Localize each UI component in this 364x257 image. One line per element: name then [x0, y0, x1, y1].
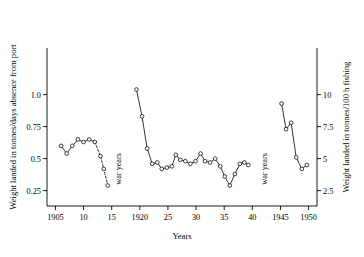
data-point — [59, 144, 63, 148]
x-tick-label: 1950 — [300, 213, 317, 222]
x-tick-label: 10 — [79, 213, 87, 222]
data-point — [280, 102, 284, 106]
data-point — [294, 156, 298, 160]
series-line-interwar — [136, 90, 248, 186]
series-line-pre-war-1-decline — [95, 142, 108, 186]
data-point — [194, 159, 198, 163]
x-tick-label: 15 — [108, 213, 116, 222]
y-tick-label-left: 0.75 — [26, 123, 41, 132]
data-point — [174, 153, 178, 157]
data-point — [233, 172, 237, 176]
y-tick-label-right: 2.5 — [323, 187, 333, 196]
data-point — [243, 161, 247, 165]
data-point — [199, 152, 203, 156]
y-tick-label-left: 1.0 — [31, 91, 41, 100]
series-line-post-war — [282, 104, 307, 169]
data-point — [82, 140, 86, 144]
data-point — [203, 159, 207, 163]
data-point — [300, 167, 304, 171]
data-point — [93, 140, 97, 144]
data-point — [165, 166, 169, 170]
y-tick-label-right: 5 — [323, 155, 327, 164]
data-point — [247, 163, 251, 167]
data-point — [106, 184, 110, 188]
data-point — [150, 162, 154, 166]
x-axis-title: Years — [172, 231, 192, 241]
annotation-war-years: war years — [114, 153, 123, 185]
y-tick-label-right: 7.5 — [323, 123, 333, 132]
chart-figure: 19051015192025303540194519500.250.50.751… — [0, 0, 364, 257]
chart-tick-labels: 19051015192025303540194519500.250.50.751… — [26, 91, 333, 222]
y-axis-title-left: Weight landed in tonnes/days absence fro… — [8, 44, 18, 210]
data-point — [238, 162, 242, 166]
x-tick-label: 25 — [164, 213, 172, 222]
y-tick-label-left: 0.5 — [31, 155, 41, 164]
y-axis-title-right: Weight landed in tonnes/100 h fishing — [341, 61, 351, 193]
data-point — [223, 175, 227, 179]
data-point — [135, 88, 139, 92]
data-point — [65, 152, 69, 156]
data-point — [76, 138, 80, 142]
annotation-war-years: war years — [260, 153, 269, 185]
data-point — [208, 161, 212, 165]
data-point — [213, 157, 217, 161]
y-tick-label-right: 10 — [323, 91, 331, 100]
x-tick-label: 1945 — [272, 213, 289, 222]
x-tick-label: 1905 — [47, 213, 64, 222]
x-tick-label: 30 — [192, 213, 200, 222]
data-point — [70, 144, 74, 148]
x-tick-label: 40 — [248, 213, 256, 222]
data-point — [228, 184, 232, 188]
data-point — [218, 164, 222, 168]
data-point — [289, 121, 293, 125]
data-point — [178, 158, 182, 162]
y-tick-label-left: 0.25 — [26, 187, 41, 196]
data-point — [102, 167, 106, 171]
data-point — [87, 138, 91, 142]
chart-annotations: war yearswar years — [114, 153, 269, 185]
line-chart: 19051015192025303540194519500.250.50.751… — [0, 0, 364, 257]
data-point — [305, 163, 309, 167]
data-point — [145, 147, 149, 151]
x-tick-label: 35 — [220, 213, 228, 222]
chart-series — [59, 88, 309, 188]
data-point — [99, 154, 103, 158]
data-point — [155, 161, 159, 165]
data-point — [170, 164, 174, 168]
data-point — [184, 159, 188, 163]
data-point — [160, 167, 164, 171]
data-point — [284, 127, 288, 131]
data-point — [189, 162, 193, 166]
chart-axes — [43, 48, 321, 210]
x-tick-label: 1920 — [132, 213, 149, 222]
chart-axis-titles: YearsWeight landed in tonnes/days absenc… — [8, 44, 351, 241]
data-point — [140, 115, 144, 119]
